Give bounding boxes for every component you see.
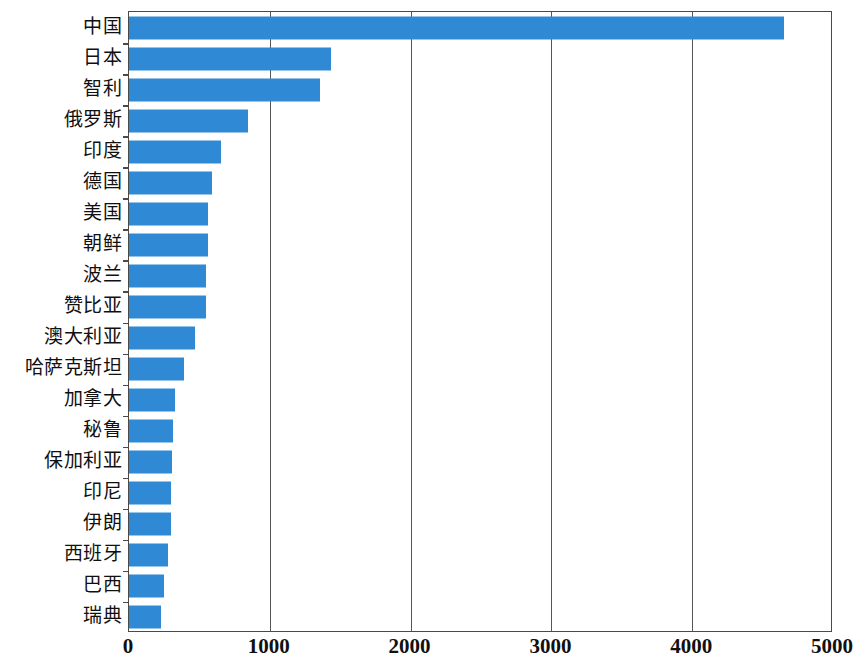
y-axis-label: 秘鲁 [0,420,122,439]
bar-row [129,229,831,260]
y-axis-label: 朝鲜 [0,234,122,253]
x-axis-labels: 010002000300040005000 [0,636,859,660]
bar-row [129,602,831,633]
bar [129,202,208,225]
bar-row [129,74,831,105]
bar-row [129,198,831,229]
bar-row [129,136,831,167]
bar-row [129,291,831,322]
bar [129,233,208,256]
bar-row [129,43,831,74]
bar [129,420,173,443]
bar-row [129,571,831,602]
y-axis-label: 伊朗 [0,513,122,532]
y-axis-label: 波兰 [0,265,122,284]
bar [129,140,221,163]
plot-area [128,11,832,632]
y-axis-label: 俄罗斯 [0,110,122,129]
bar [129,171,212,194]
x-axis-label: 4000 [670,636,712,657]
x-axis-label: 5000 [811,636,853,657]
bar [129,78,320,101]
bar [129,327,195,350]
y-axis-label: 德国 [0,172,122,191]
bar-row [129,385,831,416]
bar-row [129,260,831,291]
x-axis-label: 1000 [248,636,290,657]
y-axis-label: 保加利亚 [0,451,122,470]
bar [129,544,168,567]
bar-row [129,354,831,385]
x-axis-label: 3000 [529,636,571,657]
y-axis-label: 西班牙 [0,544,122,563]
bar-row [129,447,831,478]
bar-row [129,540,831,571]
y-axis-label: 日本 [0,48,122,67]
bars-layer [129,12,831,631]
bar [129,389,175,412]
bar [129,575,164,598]
y-axis-label: 中国 [0,17,122,36]
y-axis-label: 印度 [0,141,122,160]
x-axis-label: 2000 [389,636,431,657]
bar-row [129,12,831,43]
y-axis-labels: 中国日本智利俄罗斯印度德国美国朝鲜波兰赞比亚澳大利亚哈萨克斯坦加拿大秘鲁保加利亚… [0,11,122,632]
y-axis-label: 瑞典 [0,606,122,625]
y-axis-label: 加拿大 [0,389,122,408]
bar-row [129,416,831,447]
bar-row [129,478,831,509]
bar-row [129,323,831,354]
bar [129,47,331,70]
bar-row [129,105,831,136]
bar [129,451,172,474]
bar [129,513,171,536]
y-axis-label: 巴西 [0,575,122,594]
x-axis-label: 0 [123,636,134,657]
y-axis-label: 赞比亚 [0,296,122,315]
y-axis-label: 美国 [0,203,122,222]
bar-chart: 中国日本智利俄罗斯印度德国美国朝鲜波兰赞比亚澳大利亚哈萨克斯坦加拿大秘鲁保加利亚… [0,0,859,660]
bar [129,109,248,132]
bar [129,606,161,629]
y-axis-label: 智利 [0,79,122,98]
bar-row [129,509,831,540]
bar [129,264,206,287]
y-axis-label: 澳大利亚 [0,327,122,346]
bar [129,358,184,381]
bar [129,16,784,39]
bar [129,295,206,318]
y-axis-label: 哈萨克斯坦 [0,358,122,377]
bar [129,482,171,505]
y-axis-label: 印尼 [0,482,122,501]
bar-row [129,167,831,198]
